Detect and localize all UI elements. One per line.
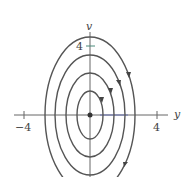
label-neg4: −4 <box>15 121 31 134</box>
label-y-axis: y <box>173 108 181 121</box>
arrow-orbit-4 <box>126 72 131 78</box>
label-v-axis: v <box>86 20 93 33</box>
label-v-4: 4 <box>76 40 83 53</box>
phase-plane-diagram: v 4 y −4 4 <box>0 0 192 177</box>
label-pos4: 4 <box>153 121 160 134</box>
equilibrium-point <box>88 113 93 118</box>
